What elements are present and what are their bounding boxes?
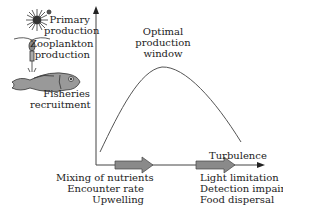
- effect-item: Upwelling: [56, 194, 144, 205]
- label-line: production: [130, 37, 196, 48]
- effect-item: Food dispersal: [200, 194, 283, 205]
- fisheries-recruitment-label: Fisheries recruitment: [30, 88, 90, 110]
- primary-production-label: Primary production: [44, 14, 90, 36]
- label-line: production: [30, 49, 90, 60]
- effect-item: Encounter rate: [56, 183, 144, 194]
- production-curve: [100, 67, 241, 152]
- label-line: recruitment: [30, 99, 90, 110]
- turbulence-label: Turbulence: [209, 150, 267, 161]
- x-axis-arrowhead: [257, 162, 265, 168]
- y-axis-arrowhead: [93, 6, 99, 14]
- effect-item: Mixing of nutrients: [56, 172, 144, 183]
- label-line: production: [44, 25, 90, 36]
- zooplankton-production-label: Zooplankton production: [30, 38, 90, 60]
- label-line: Zooplankton: [30, 38, 90, 49]
- label-line: window: [130, 48, 196, 59]
- high-turbulence-effects: Light limitation Detection impaired Food…: [200, 172, 283, 205]
- label-line: Optimal: [130, 26, 196, 37]
- label-line: Primary: [44, 14, 90, 25]
- effect-item: Detection impaired: [200, 183, 283, 194]
- label-line: Fisheries: [30, 88, 90, 99]
- low-turbulence-arrow: [115, 157, 153, 173]
- low-turbulence-effects: Mixing of nutrients Encounter rate Upwel…: [56, 172, 144, 205]
- effect-item: Light limitation: [200, 172, 283, 183]
- optimal-window-label: Optimal production window: [130, 26, 196, 59]
